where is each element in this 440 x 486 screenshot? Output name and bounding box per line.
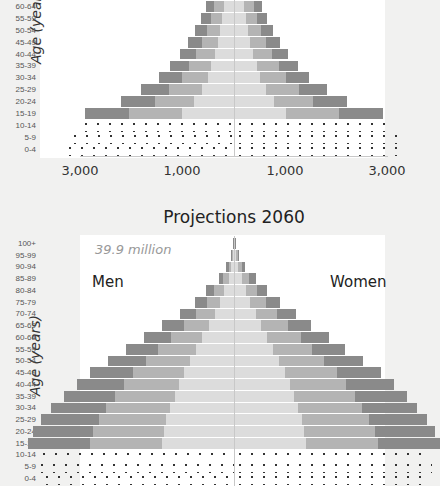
- bottom-bar-men: [207, 297, 221, 308]
- top-hatched-bar-men: [64, 144, 234, 156]
- bottom-bar-women: [234, 320, 261, 331]
- total-population: 39.9 million: [95, 242, 171, 257]
- top-age-label: 15-19: [2, 109, 36, 119]
- bottom-bar-women: [273, 344, 312, 355]
- top-bar-men: [182, 108, 234, 119]
- bottom-hatched-bar-women: [234, 450, 430, 462]
- top-bar-men: [218, 37, 234, 48]
- top-bar-men: [169, 84, 201, 95]
- bottom-bar-men: [231, 250, 232, 261]
- bottom-bar-women: [234, 332, 267, 343]
- bottom-bar-women: [355, 391, 407, 402]
- bottom-bar-women: [257, 285, 267, 296]
- top-age-label: 20-24: [2, 97, 36, 107]
- bottom-bar-men: [179, 379, 234, 390]
- top-bar-men: [141, 84, 169, 95]
- top-bar-women: [257, 61, 280, 72]
- bottom-age-label: 100+: [2, 239, 36, 249]
- bottom-bar-men: [33, 426, 93, 437]
- bottom-hatched-bar-women: [234, 473, 427, 485]
- top-age-label: 0-4: [2, 145, 36, 155]
- bottom-bar-men: [202, 332, 234, 343]
- top-bar-men: [129, 108, 181, 119]
- bottom-bar-men: [190, 356, 234, 367]
- bottom-bar-men: [232, 250, 233, 261]
- bottom-bar-men: [133, 367, 183, 378]
- top-bar-men: [201, 13, 211, 24]
- top-bar-women: [299, 84, 327, 95]
- bottom-bar-men: [226, 262, 228, 273]
- bottom-age-label: 40-44: [2, 380, 36, 390]
- bottom-bar-men: [170, 403, 234, 414]
- top-bar-women: [266, 37, 280, 48]
- bottom-bar-women: [256, 309, 278, 320]
- top-bar-women: [246, 13, 258, 24]
- bottom-bar-women: [234, 438, 306, 449]
- top-bar-women: [248, 25, 262, 36]
- bottom-hatched-bar-men: [41, 473, 234, 485]
- bottom-age-label: 95-99: [2, 251, 36, 261]
- top-bar-men: [207, 25, 221, 36]
- bottom-bar-men: [106, 403, 170, 414]
- bottom-bar-women: [302, 414, 370, 425]
- bottom-bar-men: [115, 391, 174, 402]
- bottom-bar-women: [234, 367, 285, 378]
- bottom-age-label: 75-79: [2, 298, 36, 308]
- bottom-bar-women: [277, 309, 296, 320]
- top-bar-women: [274, 96, 314, 107]
- top-bar-men: [189, 61, 212, 72]
- bottom-bar-women: [261, 320, 288, 331]
- top-bar-women: [234, 49, 253, 60]
- bottom-bar-men: [166, 414, 234, 425]
- bottom-bar-women: [234, 391, 294, 402]
- bottom-bar-men: [93, 426, 163, 437]
- top-age-label: 5-9: [2, 133, 36, 143]
- bottom-bar-men: [41, 414, 99, 425]
- bottom-bar-women: [234, 344, 273, 355]
- top-tick-women-3000: 3,000: [368, 163, 405, 178]
- bottom-age-label: 65-69: [2, 321, 36, 331]
- bottom-bar-men: [162, 320, 184, 331]
- top-age-label: 55-59: [2, 14, 36, 24]
- bottom-age-label: 35-39: [2, 392, 36, 402]
- bottom-bar-men: [195, 297, 207, 308]
- bottom-bar-women: [234, 285, 246, 296]
- top-bar-women: [279, 61, 298, 72]
- bottom-bar-women: [242, 262, 245, 273]
- bottom-center-axis: [234, 236, 235, 486]
- bottom-bar-women: [362, 403, 417, 414]
- top-bar-men: [85, 108, 130, 119]
- bottom-bar-men: [126, 344, 158, 355]
- bottom-age-label: 90-94: [2, 262, 36, 272]
- bottom-bar-men: [215, 309, 234, 320]
- top-age-label: 50-54: [2, 26, 36, 36]
- bottom-bar-women: [234, 414, 302, 425]
- bottom-bar-women: [234, 356, 279, 367]
- bottom-bar-women: [234, 379, 290, 390]
- bottom-bar-men: [196, 344, 234, 355]
- top-bar-men: [202, 37, 218, 48]
- top-bar-men: [211, 61, 234, 72]
- bottom-bar-men: [124, 379, 179, 390]
- bottom-age-label: 80-84: [2, 286, 36, 296]
- bottom-bar-men: [224, 285, 234, 296]
- top-bar-women: [339, 108, 384, 119]
- bottom-bar-women: [234, 273, 242, 284]
- bottom-bar-men: [144, 332, 171, 343]
- top-tick-men-1000: 1,000: [163, 163, 200, 178]
- chart-title: Projections 2060: [163, 207, 305, 227]
- top-bar-men: [180, 49, 196, 60]
- bottom-bar-men: [162, 438, 234, 449]
- top-bar-men: [208, 72, 234, 83]
- bottom-bar-women: [266, 297, 280, 308]
- top-bar-men: [206, 1, 214, 12]
- bottom-bar-women: [301, 332, 330, 343]
- bottom-bar-men: [77, 379, 124, 390]
- bottom-bar-women: [290, 379, 346, 390]
- top-bar-men: [214, 1, 224, 12]
- bottom-bar-women: [375, 426, 435, 437]
- bottom-hatched-bar-men: [38, 450, 234, 462]
- bottom-bar-women: [234, 426, 304, 437]
- bottom-bar-women: [234, 403, 298, 414]
- bottom-age-label: 60-64: [2, 333, 36, 343]
